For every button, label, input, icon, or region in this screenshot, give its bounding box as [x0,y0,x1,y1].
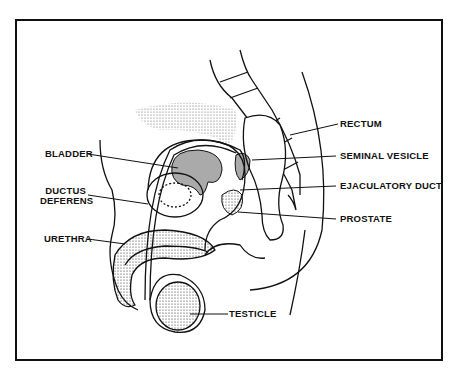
bladder-shape [172,150,222,195]
leader-urethra [88,239,125,244]
leader-prostate [238,212,336,219]
leader-ductus [88,195,148,204]
label-ejaculatory-duct: EJACULATORY DUCT [340,181,442,191]
label-rectum: RECTUM [340,119,382,129]
label-ductus-deferens: DUCTUS DEFERENS [40,186,86,206]
testicle-shape [156,282,200,330]
peritoneum-stipple [135,103,237,146]
seminal-vesicle-shape [235,153,250,180]
leader-ejaculatory [240,186,336,190]
leader-rectum [290,124,338,135]
label-bladder: BLADDER [45,149,93,159]
label-deferens: DEFERENS [40,196,86,206]
label-seminal-vesicle: SEMINAL VESICLE [340,151,429,161]
prostate-shape [222,190,243,215]
label-testicle: TESTICLE [229,309,277,319]
label-prostate: PROSTATE [340,214,392,224]
label-urethra: URETHRA [44,234,92,244]
rectum-shape [243,115,285,240]
